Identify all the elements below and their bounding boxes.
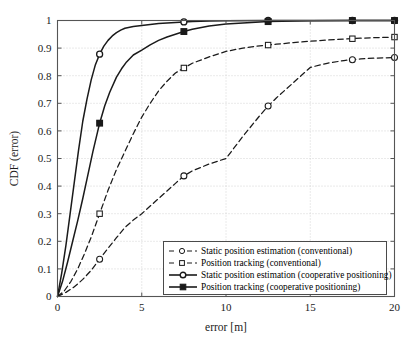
marker-square-series-1: [97, 211, 102, 216]
marker-circle-series-2: [181, 19, 187, 25]
legend-swatch-tracking-conventional: [168, 257, 198, 269]
xtick-label: 15: [305, 301, 317, 313]
legend-item-tracking-cooperative: Position tracking (cooperative positioni…: [168, 281, 382, 293]
marker-square-series-1: [181, 65, 186, 70]
figure-container: 00.10.20.30.40.50.60.70.80.9105101520err…: [0, 0, 415, 339]
legend-swatch-static-conventional: [168, 245, 198, 257]
chart-legend: Static position estimation (conventional…: [163, 241, 387, 295]
ytick-label: 0.8: [38, 70, 52, 82]
marker-circle-series-0: [97, 256, 103, 262]
ytick-label: 0.9: [38, 42, 52, 54]
legend-item-static-cooperative: Static position estimation (cooperative …: [168, 269, 382, 281]
marker-circle-series-0: [265, 103, 271, 109]
marker-circle-series-0: [349, 57, 355, 63]
ytick-label: 0.1: [38, 263, 52, 275]
legend-swatch-static-cooperative: [168, 269, 198, 281]
y-axis-title: CDF (error): [8, 131, 21, 186]
marker-square-series-1: [350, 36, 355, 41]
ytick-label: 0.7: [38, 97, 52, 109]
marker-circle-series-0: [181, 173, 187, 179]
legend-swatch-tracking-cooperative: [168, 281, 198, 293]
xtick-label: 0: [55, 301, 61, 313]
marker-square-series-1: [265, 42, 270, 47]
ytick-label: 1: [46, 14, 52, 26]
legend-label: Static position estimation (cooperative …: [201, 270, 392, 280]
legend-label: Position tracking (conventional): [201, 258, 321, 268]
xtick-label: 10: [221, 301, 233, 313]
legend-label: Position tracking (cooperative positioni…: [201, 282, 360, 292]
legend-label: Static position estimation (conventional…: [201, 246, 352, 256]
ytick-label: 0.4: [38, 180, 52, 192]
marker-square-series-3: [97, 120, 103, 126]
ytick-label: 0.3: [38, 208, 52, 220]
ytick-label: 0.5: [38, 152, 52, 164]
marker-square-series-3: [181, 29, 187, 35]
ytick-label: 0.2: [38, 235, 52, 247]
marker-circle-series-2: [97, 51, 103, 57]
marker-square-series-3: [265, 19, 271, 25]
x-axis-title: error [m]: [205, 321, 247, 333]
ytick-label: 0.6: [38, 125, 52, 137]
xtick-label: 5: [139, 301, 145, 313]
legend-item-static-conventional: Static position estimation (conventional…: [168, 245, 382, 257]
xtick-label: 20: [389, 301, 401, 313]
ytick-label: 0: [46, 290, 52, 302]
legend-item-tracking-conventional: Position tracking (conventional): [168, 257, 382, 269]
